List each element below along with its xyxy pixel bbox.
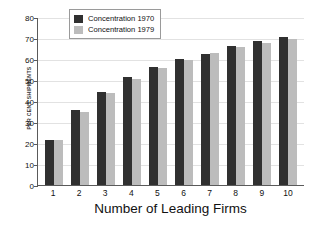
bar [80, 112, 89, 186]
y-axis-tick-label: 30 [25, 119, 34, 128]
y-axis-tick-label: 10 [25, 161, 34, 170]
x-axis-tick-label: 5 [148, 188, 166, 202]
legend-item: Concentration 1970 [74, 13, 154, 24]
bar-group [149, 18, 167, 185]
x-axis-tick-label: 7 [201, 188, 219, 202]
y-axis-tick-label: 80 [25, 14, 34, 23]
bar [54, 140, 63, 185]
plot-area [37, 18, 304, 186]
bar [132, 79, 141, 185]
bar [175, 59, 184, 185]
bar-group [253, 18, 271, 185]
x-axis-tick-label: 8 [227, 188, 245, 202]
bar-group [175, 18, 193, 185]
legend-item: Concentration 1979 [74, 24, 154, 35]
legend-label: Concentration 1970 [88, 14, 154, 23]
bar-group [201, 18, 219, 185]
x-axis-tick-label: 10 [279, 188, 297, 202]
bar [236, 47, 245, 185]
bar-group [227, 18, 245, 185]
bar [201, 54, 210, 185]
x-axis-title: Number of Leading Firms [37, 201, 304, 216]
bar-group [71, 18, 89, 185]
legend-swatch [74, 15, 83, 23]
bar [71, 110, 80, 185]
x-axis-tick-label: 2 [70, 188, 88, 202]
bar-chart: PER CENT SHIPMENTS 01020304050607080 123… [0, 0, 313, 231]
y-axis-tick-label: 70 [25, 35, 34, 44]
y-axis-tick-labels: 01020304050607080 [18, 18, 34, 186]
bar-group [45, 18, 63, 185]
y-axis-tickmark [34, 186, 38, 187]
bar [158, 68, 167, 185]
x-axis-tick-label: 6 [175, 188, 193, 202]
bar [210, 53, 219, 185]
y-axis-tick-label: 50 [25, 77, 34, 86]
bar-group [97, 18, 115, 185]
y-axis-tick-label: 40 [25, 98, 34, 107]
bar [262, 43, 271, 185]
x-axis-tick-label: 3 [96, 188, 114, 202]
y-axis-tick-label: 20 [25, 140, 34, 149]
legend-swatch [74, 26, 83, 34]
bar-group [123, 18, 141, 185]
bar [106, 93, 115, 185]
x-axis-tick-labels: 12345678910 [37, 188, 304, 202]
bar [227, 46, 236, 185]
bar-groups [38, 18, 304, 185]
bar [184, 60, 193, 185]
bar [123, 77, 132, 185]
x-axis-tick-label: 9 [253, 188, 271, 202]
y-axis-tick-label: 60 [25, 56, 34, 65]
bar [97, 92, 106, 185]
x-axis-tick-label: 4 [122, 188, 140, 202]
bar [288, 39, 297, 185]
bar [45, 140, 54, 185]
bar [149, 67, 158, 185]
bar [279, 37, 288, 185]
legend: Concentration 1970Concentration 1979 [69, 9, 161, 39]
bar-group [279, 18, 297, 185]
bar [253, 41, 262, 185]
legend-label: Concentration 1979 [88, 25, 154, 34]
x-axis-tick-label: 1 [44, 188, 62, 202]
